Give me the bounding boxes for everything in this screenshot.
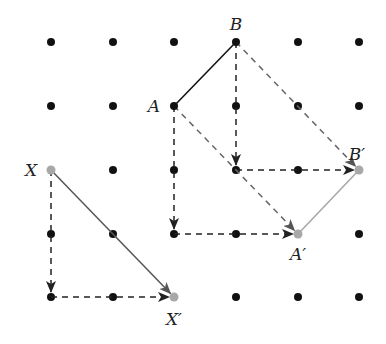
label-X: X [23,160,38,180]
label-Bp: B′ [348,144,365,164]
label-Xp: X′ [164,309,182,329]
segment-A-B [174,42,236,106]
arrows-and-segments [51,42,359,297]
grid-dot [294,293,302,301]
point-Bp [355,166,364,175]
grid-dot [109,102,117,110]
grid-dot [232,293,240,301]
translation-arrow [51,170,171,293]
grid-dot [47,102,55,110]
grid-dot [355,38,363,46]
grid-dot [355,230,363,238]
grid-dot [355,293,363,301]
label-A: A [146,96,160,116]
grid-dot [109,38,117,46]
point-Xp [170,293,179,302]
point-labels: BAXB′A′X′ [23,14,365,329]
point-X [47,166,56,175]
point-B [232,38,240,46]
grid-dot [109,166,117,174]
segment-Ap-Bp [298,170,359,234]
point-Ap [294,230,303,239]
grid-dot [355,102,363,110]
grid-dot [170,38,178,46]
label-B: B [229,14,243,34]
diagram-svg: BAXB′A′X′ [0,0,386,344]
translation-diagram: BAXB′A′X′ [0,0,386,344]
point-A [170,102,178,110]
label-Ap: A′ [288,244,306,264]
grid-dot [294,38,302,46]
grid-dot [47,38,55,46]
